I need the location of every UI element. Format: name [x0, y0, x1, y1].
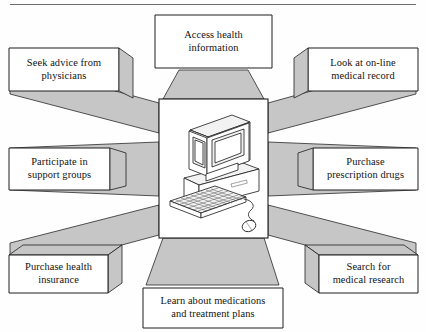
node-label-seek-advice-from-physicians[interactable]: Seek advice from physicians	[9, 48, 119, 91]
node-label-learn-about-medications[interactable]: Learn about medications and treatment pl…	[143, 288, 283, 328]
node-label-participate-in-support-groups[interactable]: Participate in support groups	[9, 148, 110, 190]
diagram-page: · · · · · · · · · · · · ·	[0, 0, 426, 332]
node-label-purchase-health-insurance[interactable]: Purchase health insurance	[9, 255, 108, 293]
ray-bottom	[146, 238, 279, 285]
node-label-access-health-information[interactable]: Access health information	[155, 15, 272, 68]
node-label-purchase-prescription-drugs[interactable]: Purchase prescription drugs	[313, 148, 418, 190]
node-label-look-at-on-line-medical-record[interactable]: Look at on-line medical record	[308, 48, 418, 91]
ray-top	[163, 70, 264, 99]
node-label-search-for-medical-research[interactable]: Search for medical research	[319, 255, 418, 293]
